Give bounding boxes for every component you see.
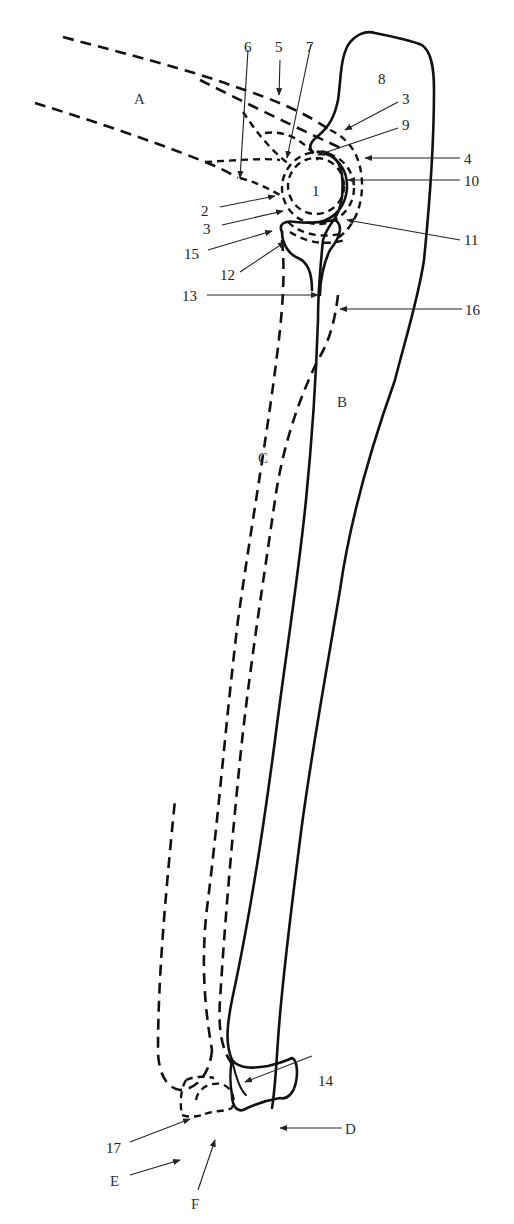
label-C: C (258, 450, 268, 466)
ulna-outline (228, 32, 435, 1108)
label-4: 4 (464, 151, 472, 167)
label-10: 10 (464, 173, 479, 189)
label-1: 1 (312, 183, 320, 199)
label-17: 17 (106, 1140, 122, 1156)
label-13: 13 (182, 288, 197, 304)
label-3-upper: 3 (402, 91, 410, 107)
label-5: 5 (275, 39, 283, 55)
humeral-condyle (282, 130, 362, 243)
label-F: F (191, 1196, 199, 1212)
label-8: 8 (378, 71, 386, 87)
carpal-bones (181, 1058, 297, 1117)
forearm-anatomy-diagram: A B C D E F 1 2 3 3 4 5 6 7 8 9 10 11 12… (0, 0, 514, 1224)
label-D: D (345, 1121, 356, 1137)
humerus-outline (35, 37, 345, 195)
radial-head (281, 220, 340, 295)
label-7: 7 (306, 39, 314, 55)
label-14: 14 (318, 1073, 334, 1089)
leader-lines (130, 44, 462, 1190)
label-2: 2 (201, 203, 209, 219)
label-11: 11 (464, 232, 478, 248)
label-12: 12 (220, 267, 235, 283)
label-3-lower: 3 (203, 221, 211, 237)
label-A: A (134, 91, 145, 107)
label-B: B (337, 394, 347, 410)
label-16: 16 (465, 302, 481, 318)
label-15: 15 (184, 246, 199, 262)
label-6: 6 (244, 39, 252, 55)
label-9: 9 (402, 117, 410, 133)
label-E: E (110, 1173, 119, 1189)
radius-outline (158, 240, 338, 1090)
region-labels: A B C D E F (110, 91, 356, 1212)
